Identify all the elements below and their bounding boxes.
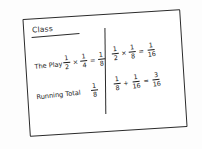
right-play-equation: 1 2 × 1 8 = 1 16 [110, 42, 158, 62]
equals-operator: = [88, 56, 97, 65]
multiply-operator: × [119, 48, 128, 57]
right-play-result: 1 16 [146, 42, 158, 58]
left-play-result: 1 8 [97, 51, 105, 67]
equals-operator: = [137, 46, 146, 55]
left-play-operand-a: 1 2 [63, 55, 71, 71]
right-total-operand-a: 1 8 [113, 76, 122, 92]
right-play-operand-b: 1 8 [128, 44, 137, 60]
left-play-operand-b: 1 4 [80, 53, 88, 69]
left-running-total-fraction: 1 8 [90, 82, 98, 98]
column-divider [104, 28, 106, 114]
right-running-total-equation: 1 8 + 1 16 = 3 16 [112, 71, 163, 91]
plus-operator: + [121, 78, 130, 87]
multiply-operator: × [71, 57, 80, 66]
left-running-total-value: 1 8 [89, 82, 99, 98]
equals-operator: = [142, 76, 151, 85]
row-label-the-play: The Play [34, 60, 63, 71]
class-heading: Class [32, 24, 53, 34]
right-play-operand-a: 1 2 [111, 46, 120, 62]
row-label-running-total: Running Total [36, 89, 81, 102]
right-total-operand-b: 1 16 [130, 74, 142, 90]
card-content: Class The Play Running Total 1 2 × 1 4 [22, 9, 187, 137]
right-total-result: 3 16 [151, 72, 163, 88]
left-play-equation: 1 2 × 1 4 = 1 8 [62, 51, 107, 70]
canvas-background: Class The Play Running Total 1 2 × 1 4 [0, 0, 202, 149]
handwritten-worksheet-card: Class The Play Running Total 1 2 × 1 4 [22, 9, 187, 137]
